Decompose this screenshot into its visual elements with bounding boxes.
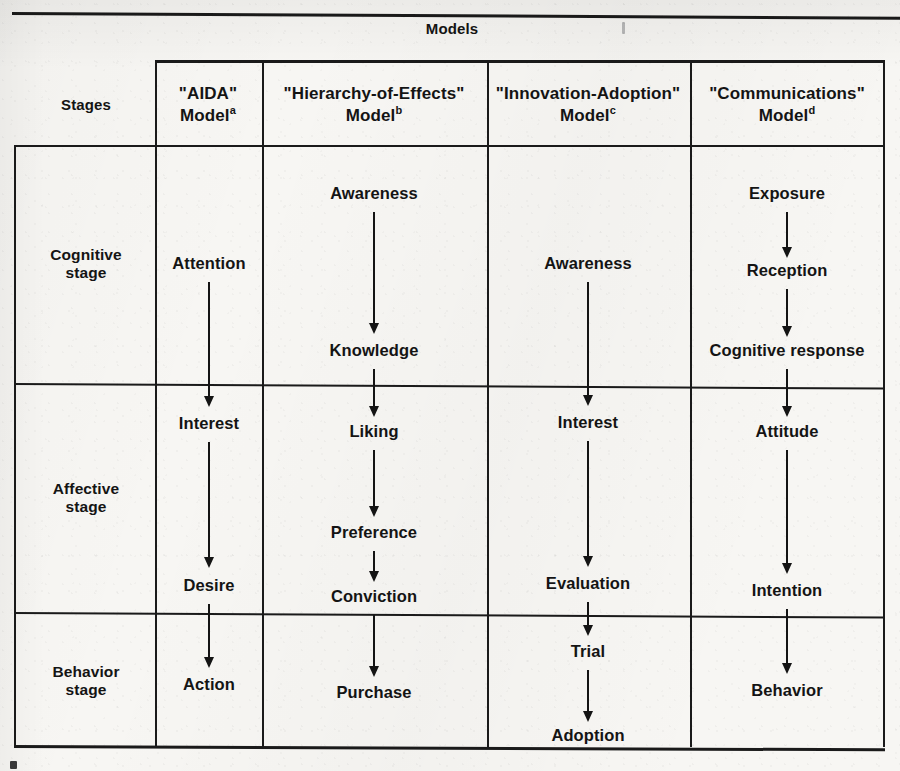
- arrow-aida-desire-action: [201, 604, 217, 668]
- stage-label-cognitive-line2: stage: [66, 264, 107, 281]
- arrow-hoe-knowledge-liking: [366, 369, 382, 417]
- arrow-ia-awareness-interest: [580, 282, 596, 406]
- node-ia-evaluation: Evaluation: [546, 574, 630, 593]
- column-header-hierarchy-note: b: [395, 104, 402, 116]
- column-header-aida-line2: Model: [180, 106, 230, 125]
- node-aida-interest: Interest: [179, 414, 239, 433]
- arrow-hoe-conviction-purchase: [366, 615, 382, 677]
- arrow-comm-cognitive-response-attitude: [779, 369, 795, 417]
- column-header-hierarchy-line1: "Hierarchy-of-Effects": [284, 84, 465, 103]
- top-rule: [12, 12, 900, 20]
- node-hoe-awareness: Awareness: [330, 184, 418, 203]
- column-header-aida-line1: "AIDA": [179, 84, 237, 103]
- node-hoe-preference: Preference: [331, 523, 417, 542]
- column-header-communications-line1: "Communications": [709, 84, 865, 103]
- scan-speck: [10, 761, 17, 769]
- node-comm-behavior: Behavior: [751, 681, 822, 700]
- arrow-ia-interest-evaluation: [580, 441, 596, 567]
- node-aida-action: Action: [183, 675, 235, 694]
- column-header-innovation-line2: Model: [560, 106, 610, 125]
- node-hoe-liking: Liking: [349, 422, 398, 441]
- column-header-innovation-line1: "Innovation-Adoption": [496, 84, 680, 103]
- node-hoe-purchase: Purchase: [336, 683, 411, 702]
- stage-label-behavior-line2: stage: [66, 681, 107, 698]
- column-header-aida: "AIDA" Modela: [158, 84, 258, 126]
- scan-speck: [622, 22, 625, 34]
- stage-label-affective-line1: Affective: [53, 480, 119, 497]
- stage-label-behavior: Behavior stage: [21, 663, 151, 700]
- col-separator-stages: [155, 60, 157, 747]
- header-top-border: [155, 60, 885, 63]
- stage-label-cognitive-line1: Cognitive: [50, 246, 122, 263]
- node-hoe-knowledge: Knowledge: [330, 341, 419, 360]
- body-right-border: [883, 60, 885, 747]
- node-comm-attitude: Attitude: [755, 422, 818, 441]
- col-separator-3: [690, 60, 692, 747]
- node-comm-cognitive-response: Cognitive response: [710, 341, 865, 360]
- column-header-communications-line2: Model: [759, 106, 809, 125]
- stage-label-behavior-line1: Behavior: [52, 663, 119, 680]
- column-header-hierarchy-line2: Model: [346, 106, 396, 125]
- col-separator-2: [487, 60, 489, 747]
- node-ia-interest: Interest: [558, 413, 618, 432]
- column-header-aida-note: a: [230, 104, 236, 116]
- stages-header: Stages: [61, 96, 111, 114]
- arrow-hoe-liking-preference: [366, 450, 382, 517]
- node-aida-desire: Desire: [183, 576, 234, 595]
- arrow-hoe-awareness-knowledge: [366, 212, 382, 334]
- row-divider-affective-behavior: [14, 612, 885, 618]
- node-ia-trial: Trial: [571, 642, 605, 661]
- arrow-aida-interest-desire: [201, 442, 217, 568]
- column-header-innovation-note: c: [610, 104, 616, 116]
- node-ia-awareness: Awareness: [544, 254, 632, 273]
- stage-label-affective-line2: stage: [66, 498, 107, 515]
- node-aida-attention: Attention: [172, 254, 245, 273]
- col-separator-1: [262, 60, 264, 747]
- column-header-communications-note: d: [808, 104, 815, 116]
- arrow-comm-attitude-intention: [779, 450, 795, 574]
- column-header-communications: "Communications" Modeld: [691, 84, 883, 126]
- column-header-hierarchy: "Hierarchy-of-Effects" Modelb: [263, 84, 485, 126]
- arrow-comm-reception-cognitive-response: [779, 289, 795, 337]
- node-ia-adoption: Adoption: [551, 726, 624, 745]
- figure-canvas: Models Stages "AIDA" Modela "Hierarchy-o…: [0, 0, 900, 771]
- arrow-aida-attention-interest: [201, 282, 217, 407]
- arrow-comm-intention-behavior: [779, 609, 795, 674]
- stage-label-affective: Affective stage: [21, 480, 151, 517]
- header-bottom-border: [14, 145, 885, 147]
- row-divider-cognitive-affective: [14, 383, 885, 389]
- node-comm-reception: Reception: [747, 261, 828, 280]
- body-left-border: [14, 145, 16, 747]
- node-comm-exposure: Exposure: [749, 184, 825, 203]
- arrow-ia-evaluation-trial: [580, 602, 596, 636]
- node-hoe-conviction: Conviction: [331, 587, 417, 606]
- arrow-comm-exposure-reception: [779, 212, 795, 258]
- column-header-innovation: "Innovation-Adoption" Modelc: [488, 84, 688, 126]
- stage-label-cognitive: Cognitive stage: [21, 246, 151, 283]
- node-comm-intention: Intention: [752, 581, 823, 600]
- arrow-hoe-preference-conviction: [366, 551, 382, 582]
- body-bottom-border: [14, 745, 885, 751]
- arrow-ia-trial-adoption: [580, 670, 596, 722]
- models-header: Models: [426, 20, 478, 38]
